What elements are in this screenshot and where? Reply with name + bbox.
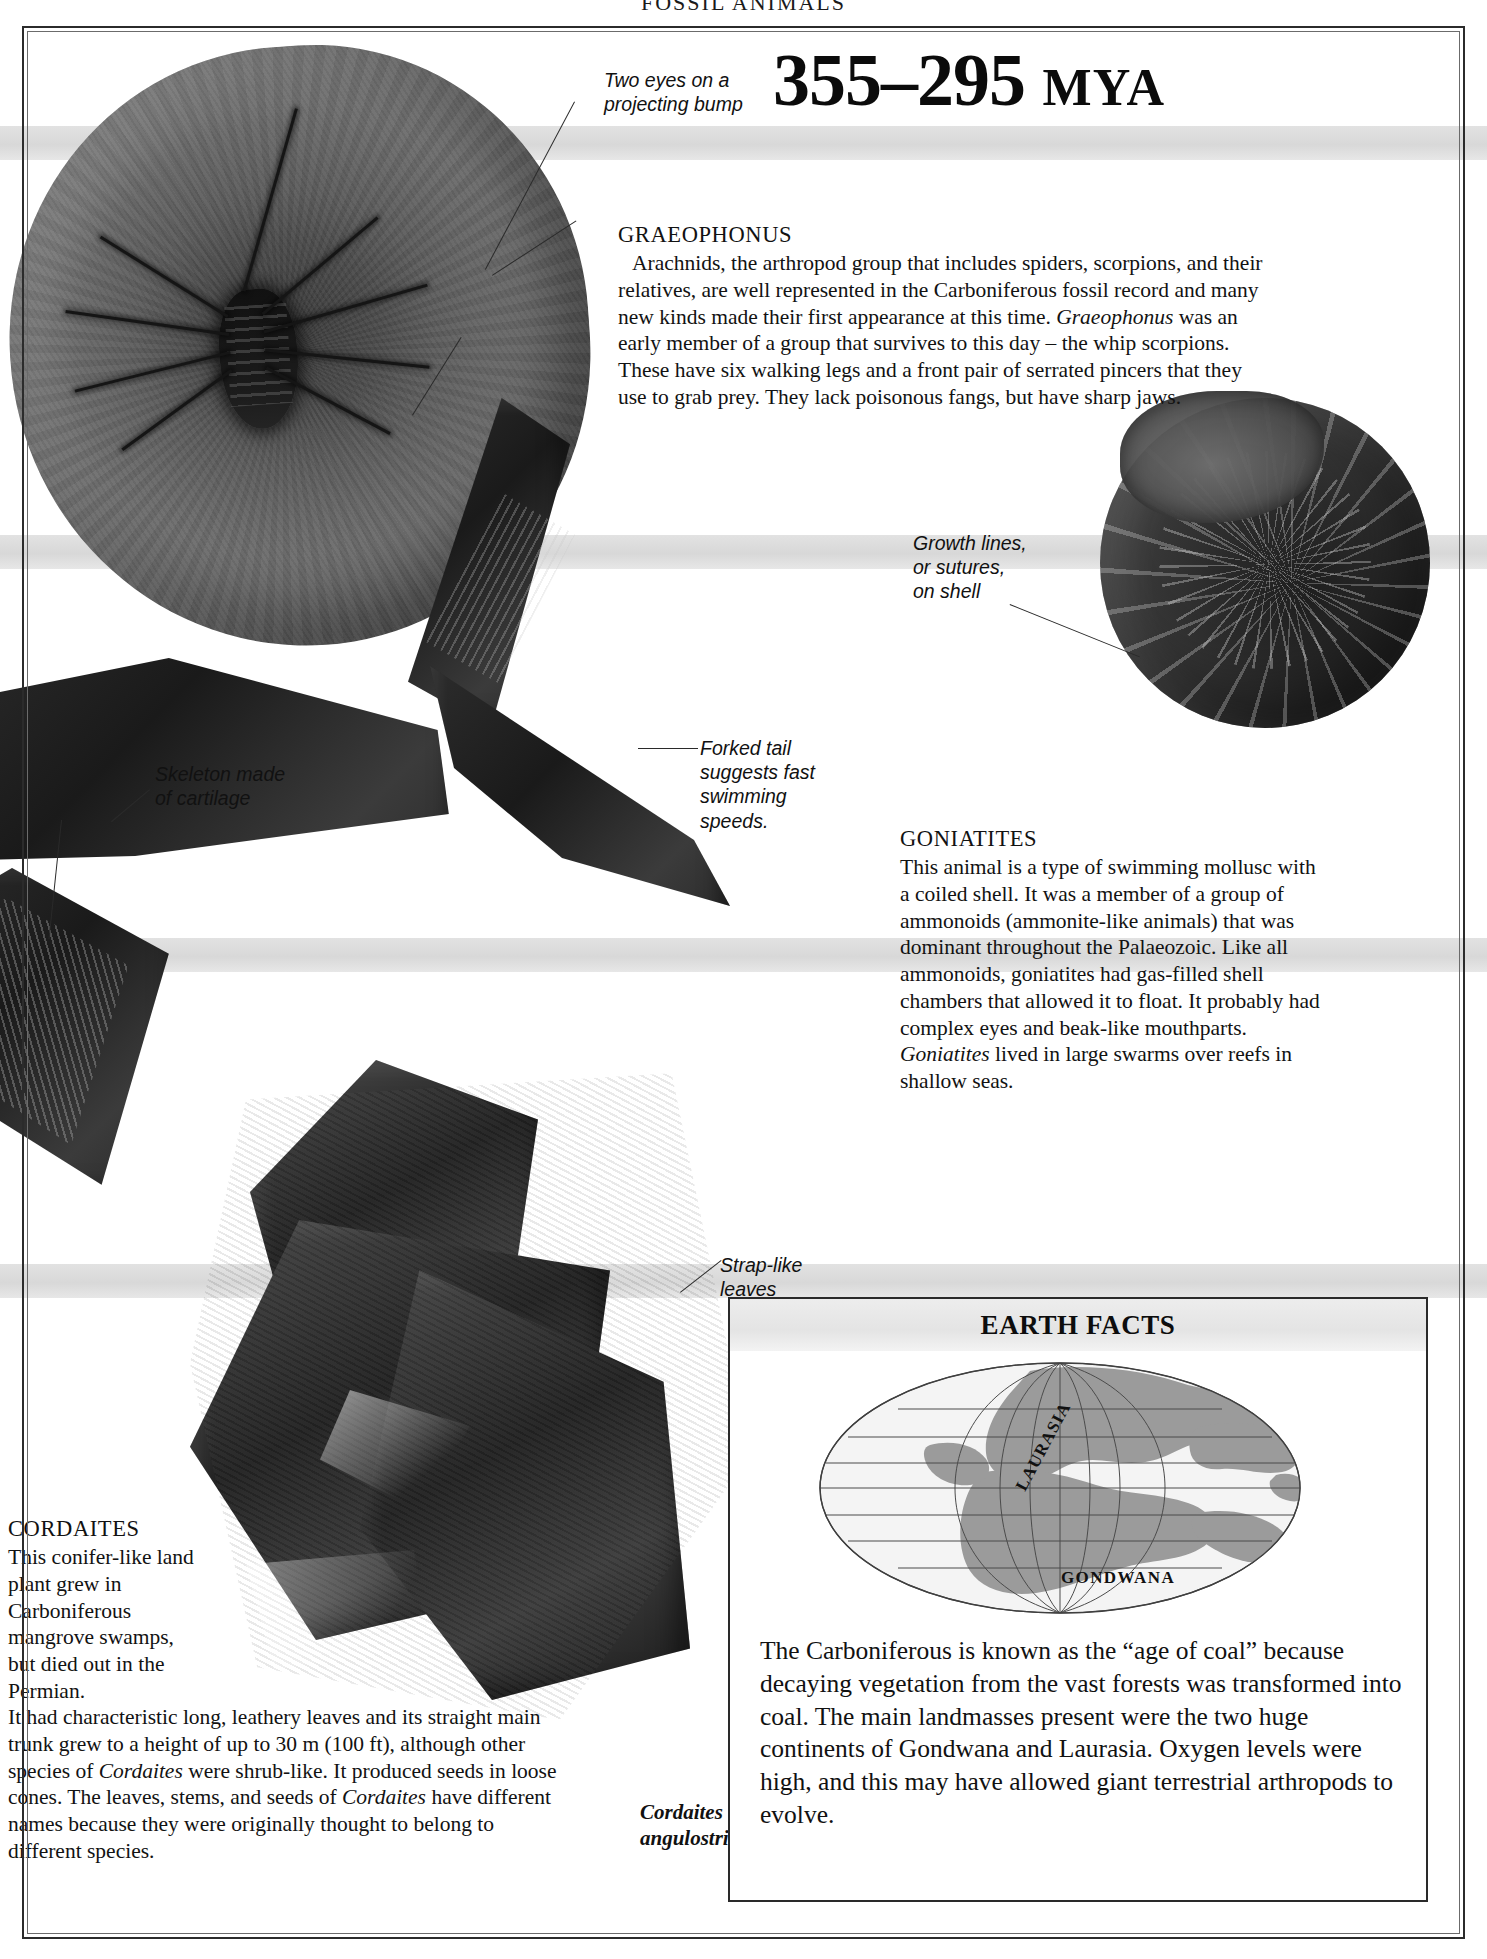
running-head: FOSSIL ANIMALS <box>0 0 1487 16</box>
page-border-inner <box>27 31 1460 1934</box>
